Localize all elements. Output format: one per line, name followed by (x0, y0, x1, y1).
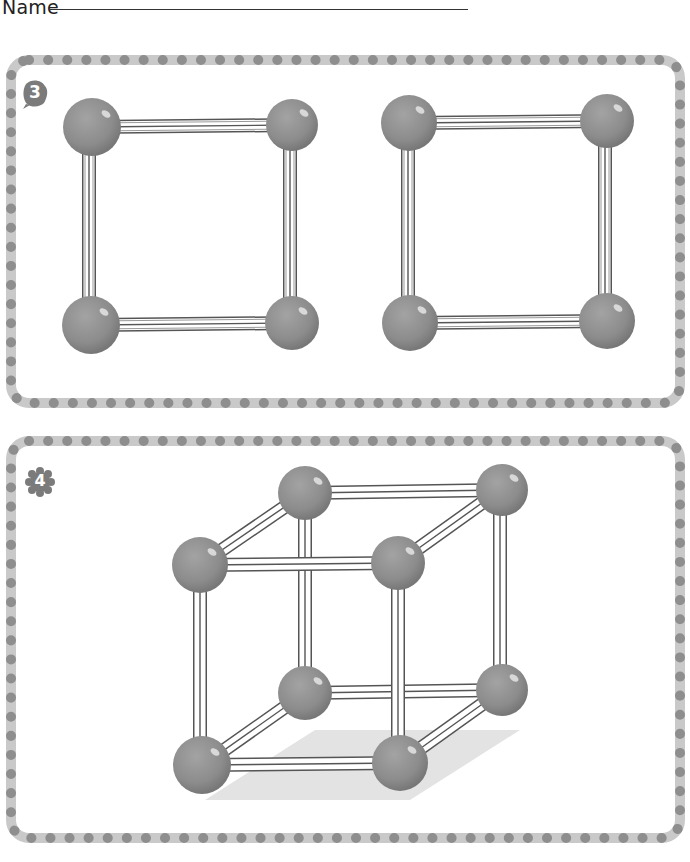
sphere (173, 736, 231, 794)
rod (200, 490, 502, 765)
cube (172, 464, 528, 800)
problem-3-number: 3 (26, 82, 44, 102)
sphere (580, 94, 634, 148)
sphere (278, 466, 332, 520)
problem-3-number-text: 3 (29, 82, 41, 102)
sphere (476, 464, 528, 516)
square-2 (381, 94, 635, 351)
sphere (372, 735, 428, 791)
sphere (476, 664, 528, 716)
sphere (172, 537, 228, 593)
rod (404, 117, 609, 327)
sphere (266, 99, 318, 151)
sphere (278, 666, 332, 720)
problem-4-number: 4 (31, 471, 49, 490)
sphere (579, 293, 635, 349)
square-1 (62, 98, 319, 354)
sphere (63, 98, 121, 156)
sphere (381, 95, 437, 151)
sphere (62, 296, 120, 354)
worksheet-art (0, 0, 690, 862)
sphere (371, 536, 425, 590)
problem-4-number-text: 4 (34, 471, 45, 490)
sphere (265, 296, 319, 350)
sphere (382, 295, 438, 351)
rod (85, 121, 294, 329)
